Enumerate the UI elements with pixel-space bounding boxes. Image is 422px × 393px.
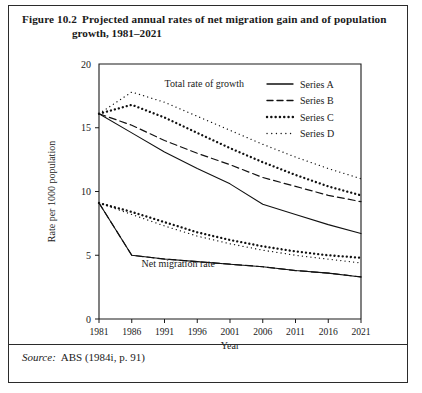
y-axis-tick-label: 20 xyxy=(81,59,91,70)
y-axis-tick-label: 0 xyxy=(86,314,91,325)
chart-annotation: Total rate of growth xyxy=(165,78,245,89)
chart-annotation: Net migration rate xyxy=(142,258,216,269)
data-series-line xyxy=(99,114,361,202)
x-axis-tick-label: 2001 xyxy=(220,326,239,337)
x-axis-tick-label: 2006 xyxy=(253,326,272,337)
chart-plot-area: 0510152019811986199119962001200620112016… xyxy=(9,6,409,384)
legend-label: Series A xyxy=(300,79,334,90)
data-series-line xyxy=(99,203,361,258)
x-axis-tick-label: 1981 xyxy=(89,326,108,337)
x-axis-tick-label: 1986 xyxy=(122,326,141,337)
source-label: Source: xyxy=(22,351,56,363)
source-divider xyxy=(9,344,407,345)
source-text: ABS (1984i, p. 91) xyxy=(61,351,145,363)
y-axis-tick-label: 5 xyxy=(86,250,91,261)
x-axis-tick-label: 2011 xyxy=(286,326,305,337)
source-line: Source:ABS (1984i, p. 91) xyxy=(22,351,145,363)
y-axis-tick-label: 10 xyxy=(81,186,91,197)
legend-label: Series D xyxy=(300,128,334,139)
legend-label: Series C xyxy=(300,112,334,123)
x-axis-title: Year xyxy=(221,340,240,351)
legend-label: Series B xyxy=(300,95,334,106)
y-axis-title: Rate per 1000 population xyxy=(46,141,57,242)
y-axis-tick-label: 15 xyxy=(81,122,91,133)
x-axis-tick-label: 2021 xyxy=(351,326,370,337)
x-axis-tick-label: 2016 xyxy=(319,326,338,337)
figure-container: Figure 10.2Projected annual rates of net… xyxy=(8,5,408,383)
x-axis-tick-label: 1991 xyxy=(155,326,174,337)
line-chart: 0510152019811986199119962001200620112016… xyxy=(9,6,409,384)
x-axis-tick-label: 1996 xyxy=(188,326,207,337)
